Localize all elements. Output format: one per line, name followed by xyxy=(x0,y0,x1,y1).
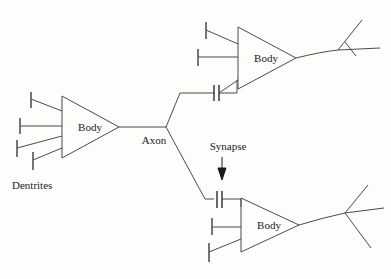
left-dendrite-4 xyxy=(33,148,62,170)
synapse-label: Synapse xyxy=(210,140,247,152)
synapse-annotation: Synapse xyxy=(210,140,247,180)
dendrites-label: Dentrites xyxy=(12,179,52,191)
dendrite-stem xyxy=(209,239,241,252)
dendrite-stem xyxy=(206,30,238,44)
axon-trunk xyxy=(296,50,338,58)
lower-dendrite-3 xyxy=(209,239,241,262)
diagram-canvas: Body Axon xyxy=(0,0,391,279)
upper-right-neuron: Body xyxy=(198,20,380,93)
body-label: Body xyxy=(78,121,102,133)
body-label: Body xyxy=(257,219,281,231)
body-label: Body xyxy=(254,52,278,64)
lower-right-neuron: Body xyxy=(209,185,384,262)
dendrite-stem xyxy=(17,136,62,148)
axon-terminal-branch-3 xyxy=(345,213,371,248)
axon-terminal-branch-2 xyxy=(345,208,384,213)
axon-branch-lower xyxy=(166,127,214,199)
left-dendrite-1 xyxy=(31,92,62,111)
lower-dendrite-2 xyxy=(212,218,241,235)
axon-label: Axon xyxy=(142,134,167,146)
synapse-symbol-lower xyxy=(217,191,241,208)
neuron-diagram-svg: Body Axon xyxy=(0,0,391,279)
dendrite-stem-link xyxy=(219,80,238,93)
synapse-arrow-head xyxy=(218,168,226,180)
axon-terminal-branch-2 xyxy=(338,48,380,50)
upper-dendrite-1 xyxy=(206,22,238,44)
dendrite-stem xyxy=(33,148,62,160)
dendrite-stem xyxy=(31,99,62,111)
axon-branch-upper xyxy=(166,93,214,127)
upper-dendrite-3-synaptic xyxy=(219,80,238,93)
left-dendrite-2 xyxy=(20,118,62,134)
left-dendrite-3 xyxy=(17,136,62,157)
axon-terminal-branch-1 xyxy=(345,185,368,213)
upper-dendrite-2 xyxy=(198,49,238,66)
axon-terminal-branch-1 xyxy=(338,20,362,50)
axon-trunk xyxy=(299,213,345,225)
